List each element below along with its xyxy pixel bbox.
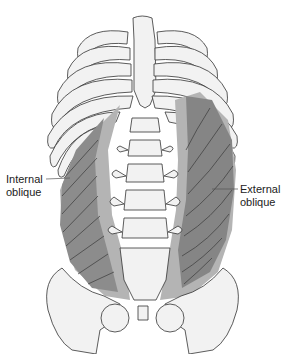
- abdominal-oblique-diagram: [0, 0, 285, 354]
- internal-oblique-label-line1: Internal: [6, 173, 43, 186]
- external-oblique-label-line1: External: [240, 183, 280, 196]
- external-oblique-label-line2: oblique: [240, 196, 280, 209]
- internal-oblique-label-line2: oblique: [6, 186, 43, 199]
- sternum: [133, 16, 156, 108]
- internal-oblique-label: Internal oblique: [6, 173, 43, 199]
- external-oblique-label: External oblique: [240, 183, 280, 209]
